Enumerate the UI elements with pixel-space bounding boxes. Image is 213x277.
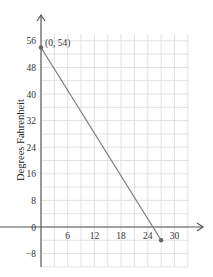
x-tick-label: 6 [65, 231, 70, 241]
x-tick-label: 30 [170, 231, 180, 241]
y-tick-label: 56 [27, 36, 37, 46]
x-tick-label: 24 [143, 231, 153, 241]
x-tick-label: 12 [90, 231, 100, 241]
data-point [159, 238, 163, 242]
x-tick-label: 18 [116, 231, 126, 241]
y-tick-label: 24 [27, 143, 37, 153]
y-tick-label: 8 [31, 196, 36, 206]
y-tick-label: 32 [27, 116, 37, 126]
chart-grid [41, 34, 188, 267]
series-line [41, 47, 161, 240]
y-tick-label: 48 [27, 63, 37, 73]
y-tick-label: 40 [27, 90, 37, 100]
y-axis-label: Degrees Fahrenheit [15, 99, 26, 181]
y-tick-labels: 56484032241680−8 [26, 36, 36, 259]
line-chart: 612182430 56484032241680−8 Degrees Fahre… [0, 0, 213, 277]
y-tick-label: 16 [27, 169, 37, 179]
data-point [39, 45, 43, 49]
point-annotation: (0, 54) [45, 38, 70, 49]
y-tick-label: 0 [31, 223, 36, 233]
y-tick-label: −8 [26, 249, 36, 259]
data-series [39, 45, 164, 242]
